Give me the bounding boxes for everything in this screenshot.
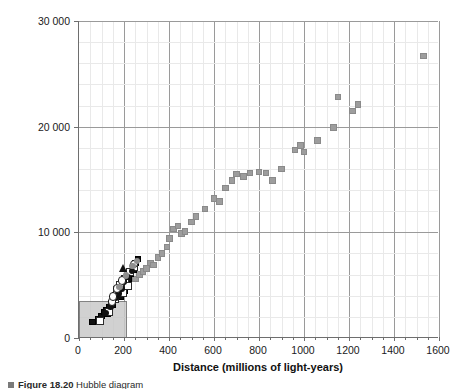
data-point — [120, 280, 127, 287]
inset-region-box — [79, 301, 127, 338]
data-point — [132, 276, 139, 283]
x-tick-label: 1600 — [426, 344, 449, 356]
data-point — [129, 268, 136, 275]
hubble-diagram-figure: 02004006008001000120014001600 010 00020 … — [0, 0, 462, 389]
x-tick — [147, 337, 148, 340]
x-tick — [293, 337, 294, 340]
data-point — [130, 260, 139, 269]
data-point — [117, 294, 124, 301]
data-point — [122, 287, 129, 294]
data-point — [113, 286, 121, 294]
x-tick — [327, 337, 328, 340]
x-tick-label: 0 — [75, 344, 81, 356]
axis-ticks — [79, 21, 438, 337]
data-point — [109, 292, 118, 301]
y-tick — [74, 338, 79, 339]
x-tick-label: 1000 — [291, 344, 314, 356]
y-tick-label: 0 — [64, 332, 70, 344]
data-point — [164, 244, 171, 251]
x-tick — [439, 337, 440, 341]
x-tick — [225, 337, 226, 340]
data-point — [140, 268, 147, 275]
data-point — [143, 265, 150, 272]
plot-area — [78, 21, 438, 338]
data-point — [113, 289, 120, 296]
data-point — [170, 226, 177, 233]
data-point — [130, 263, 138, 271]
x-tick — [383, 337, 384, 340]
data-point — [216, 198, 223, 205]
data-point — [112, 292, 119, 299]
x-tick — [248, 337, 249, 340]
data-point — [119, 264, 127, 272]
data-point — [147, 260, 154, 267]
data-point — [211, 195, 218, 202]
data-point — [126, 276, 133, 283]
data-point — [233, 171, 240, 178]
data-point — [121, 275, 129, 283]
data-point — [240, 173, 247, 180]
x-tick — [192, 337, 193, 340]
data-point — [155, 254, 162, 261]
figure-caption: Figure 18.20 Hubble diagram — [8, 379, 462, 389]
data-point — [116, 286, 123, 293]
x-tick — [394, 337, 395, 341]
y-tick-label: 20 000 — [38, 121, 70, 133]
data-point — [119, 284, 126, 291]
data-point — [118, 286, 125, 293]
data-point — [119, 289, 127, 297]
data-point — [292, 147, 299, 154]
x-tick — [270, 337, 271, 340]
data-point — [123, 282, 130, 289]
y-tick — [74, 232, 79, 233]
x-tick — [417, 337, 418, 340]
data-point — [118, 276, 127, 285]
data-point — [335, 94, 342, 101]
data-point — [269, 177, 276, 184]
data-point — [124, 282, 132, 290]
gridlines — [79, 21, 438, 337]
x-tick — [428, 337, 429, 340]
x-tick — [158, 337, 159, 340]
data-point — [301, 149, 308, 156]
data-point — [188, 219, 195, 226]
data-point — [297, 142, 304, 149]
data-markers — [79, 21, 438, 337]
caption-figure-number: 18.20 — [50, 379, 74, 389]
x-tick — [282, 337, 283, 340]
y-tick-label: 10 000 — [38, 226, 70, 238]
x-axis-title: Distance (millions of light-years) — [78, 361, 438, 373]
y-tick — [74, 127, 79, 128]
data-point — [126, 268, 134, 276]
data-point — [420, 53, 427, 60]
data-point — [124, 274, 131, 281]
x-tick — [214, 337, 215, 341]
data-point — [159, 250, 166, 257]
x-tick — [259, 337, 260, 341]
data-point — [114, 291, 121, 298]
data-point — [229, 177, 236, 184]
data-point — [135, 256, 142, 263]
data-point — [349, 108, 356, 115]
x-tick-label: 800 — [249, 344, 267, 356]
dotted-trend-curve — [79, 21, 438, 337]
data-point — [115, 290, 122, 297]
x-tick — [405, 337, 406, 340]
data-point — [131, 266, 138, 273]
x-tick — [349, 337, 350, 341]
data-point — [178, 230, 185, 237]
x-tick — [135, 337, 136, 340]
y-tick-label: 30 000 — [38, 15, 70, 27]
caption-figure-label: Figure — [18, 379, 47, 389]
x-tick — [180, 337, 181, 340]
data-point — [123, 272, 130, 279]
data-point — [116, 281, 124, 289]
data-point — [113, 284, 122, 293]
x-tick — [360, 337, 361, 340]
x-tick — [169, 337, 170, 341]
data-point — [256, 169, 263, 176]
caption-text: Hubble diagram — [76, 379, 143, 389]
data-point — [136, 271, 143, 278]
data-point — [193, 213, 200, 220]
data-point — [128, 270, 135, 277]
